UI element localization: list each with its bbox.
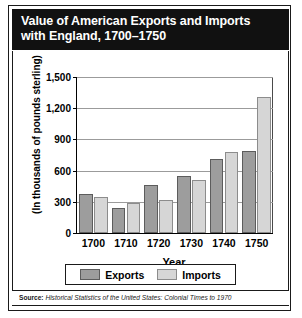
source-divider xyxy=(12,290,289,291)
x-axis-tick-label: 1720 xyxy=(147,237,170,249)
bar-imports-1740 xyxy=(225,152,239,233)
bottom-divider xyxy=(12,305,289,306)
bar-exports-1720 xyxy=(144,185,158,233)
chart-title-bar: Value of American Exports and Imports wi… xyxy=(12,9,289,50)
bar-imports-1720 xyxy=(159,200,173,233)
y-axis-tick-mark xyxy=(73,108,77,109)
bar-exports-1740 xyxy=(210,159,224,233)
chart-title-line-2: with England, 1700–1750 xyxy=(21,29,280,44)
bar-exports-1750 xyxy=(242,151,256,233)
chart-title-line-1: Value of American Exports and Imports xyxy=(21,14,280,29)
gridline xyxy=(77,77,273,78)
y-axis-tick-label: 300 xyxy=(54,196,71,207)
y-axis-tick-mark xyxy=(73,139,77,140)
y-axis-tick-label: 600 xyxy=(54,165,71,176)
y-axis-tick-label: 1,200 xyxy=(46,103,71,114)
bar-exports-1700 xyxy=(79,194,93,233)
y-axis-tick-label: 900 xyxy=(54,134,71,145)
x-axis-tick-label: 1730 xyxy=(180,237,203,249)
bar-imports-1730 xyxy=(192,180,206,233)
legend-item-imports: Imports xyxy=(157,269,221,281)
bar-exports-1730 xyxy=(177,176,191,233)
legend-item-exports: Exports xyxy=(80,269,144,281)
chart-figure: Value of American Exports and Imports wi… xyxy=(8,5,291,311)
chart-legend: Exports Imports xyxy=(65,264,236,285)
x-axis-tick-label: 1700 xyxy=(82,237,105,249)
bar-exports-1710 xyxy=(112,208,126,233)
chart-plot-panel: (In thousands of pounds sterling) 030060… xyxy=(12,51,289,291)
x-axis-tick-label: 1740 xyxy=(212,237,235,249)
legend-label-imports: Imports xyxy=(182,269,221,281)
source-citation: Historical Statistics of the United Stat… xyxy=(44,294,232,301)
y-axis-tick-label: 1,500 xyxy=(46,72,71,83)
x-axis-tick-label: 1750 xyxy=(245,237,268,249)
y-axis-tick-mark xyxy=(73,77,77,78)
legend-label-exports: Exports xyxy=(105,269,144,281)
y-axis-title: (In thousands of pounds sterling) xyxy=(31,50,42,220)
bar-imports-1700 xyxy=(94,197,108,233)
y-axis-tick-mark xyxy=(73,202,77,203)
gridline xyxy=(77,108,273,109)
y-axis-tick-label: 0 xyxy=(65,228,71,239)
gridline xyxy=(77,139,273,140)
y-axis-tick-mark xyxy=(73,233,77,234)
bar-imports-1750 xyxy=(257,97,271,233)
legend-swatch-imports xyxy=(157,269,177,280)
y-axis-tick-mark xyxy=(73,171,77,172)
source-note: Source: Historical Statistics of the Uni… xyxy=(19,294,232,301)
legend-swatch-exports xyxy=(80,269,100,280)
x-axis-tick-label: 1710 xyxy=(114,237,137,249)
plot-area: 03006009001,2001,50017001710172017301740… xyxy=(76,77,273,234)
source-prefix: Source: xyxy=(19,294,44,301)
bar-imports-1710 xyxy=(127,203,141,233)
